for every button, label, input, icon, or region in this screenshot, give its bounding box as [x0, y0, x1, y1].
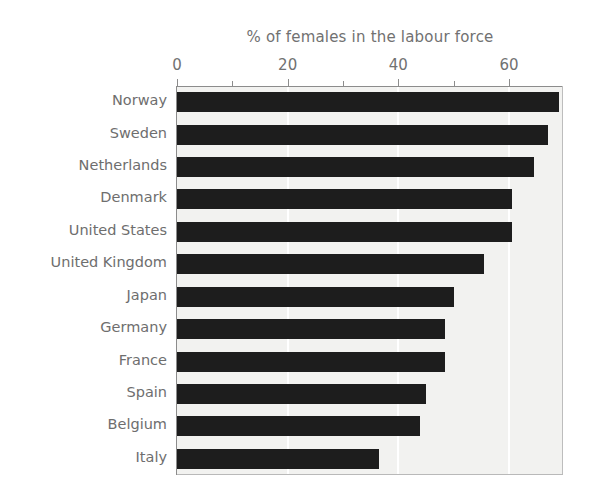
x-tick-major-60: [509, 79, 510, 87]
category-label-belgium: Belgium: [12, 416, 177, 432]
category-label-france: France: [12, 352, 177, 368]
x-tick-label-60: 60: [499, 56, 518, 74]
category-label-denmark: Denmark: [12, 189, 177, 205]
x-tick-minor-30: [343, 81, 344, 87]
bar-spain: [177, 384, 426, 404]
x-tick-label-40: 40: [389, 56, 408, 74]
category-label-japan: Japan: [12, 287, 177, 303]
x-tick-major-20: [288, 79, 289, 87]
x-axis-line-top: [177, 86, 563, 87]
category-label-united-states: United States: [12, 222, 177, 238]
category-label-netherlands: Netherlands: [12, 157, 177, 173]
category-label-united-kingdom: United Kingdom: [12, 254, 177, 270]
category-labels: NorwaySwedenNetherlandsDenmarkUnited Sta…: [0, 86, 177, 475]
x-tick-major-40: [398, 79, 399, 87]
bar-sweden: [177, 125, 548, 145]
bar-italy: [177, 449, 379, 469]
bar-chart-figure: % of females in the labour force 0204060…: [0, 0, 593, 490]
category-label-spain: Spain: [12, 384, 177, 400]
plot-right-border: [562, 86, 563, 475]
x-tick-label-20: 20: [278, 56, 297, 74]
category-label-italy: Italy: [12, 449, 177, 465]
bar-united-kingdom: [177, 254, 484, 274]
category-label-sweden: Sweden: [12, 125, 177, 141]
chart-title: % of females in the labour force: [177, 28, 563, 46]
bar-belgium: [177, 416, 420, 436]
x-tick-label-0: 0: [172, 56, 182, 74]
bar-united-states: [177, 222, 512, 242]
x-tick-minor-10: [232, 81, 233, 87]
bar-japan: [177, 287, 454, 307]
category-label-germany: Germany: [12, 319, 177, 335]
bar-netherlands: [177, 157, 534, 177]
bar-norway: [177, 92, 559, 112]
bar-france: [177, 352, 445, 372]
x-tick-major-0: [177, 79, 178, 87]
bar-germany: [177, 319, 445, 339]
x-axis-line-bottom: [177, 474, 563, 475]
x-tick-minor-50: [454, 81, 455, 87]
bar-denmark: [177, 189, 512, 209]
category-label-norway: Norway: [12, 92, 177, 108]
